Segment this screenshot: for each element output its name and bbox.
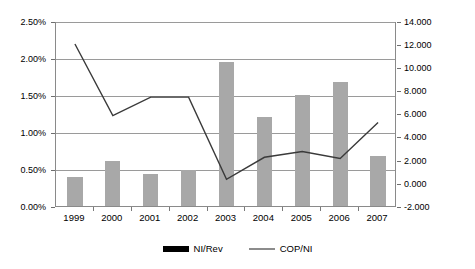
right-axis-tick-label: 14.000 [404, 18, 464, 27]
chart-legend: NI/Rev COP/NI [0, 243, 475, 254]
left-axis-tick-label: 0.00% [0, 203, 46, 212]
x-axis-tick [93, 207, 94, 211]
right-axis-tick-label: -2.000 [404, 203, 464, 212]
right-axis-tick-label: 6.000 [404, 110, 464, 119]
x-axis-tick-label: 2007 [357, 213, 397, 223]
cop-ni-polyline [75, 44, 378, 179]
right-axis-tick [397, 207, 401, 208]
left-axis-tick-label: 2.50% [0, 18, 46, 27]
left-axis-tick-label: 0.50% [0, 166, 46, 175]
x-axis-tick-label: 2002 [168, 213, 208, 223]
left-axis-tick [51, 207, 55, 208]
right-axis-tick [397, 161, 401, 162]
x-axis-tick [169, 207, 170, 211]
x-axis-tick-label: 2003 [206, 213, 246, 223]
right-axis-tick [397, 184, 401, 185]
chart-container: 2.50% 2.00% 1.50% 1.00% 0.50% 0.00% 14.0… [0, 0, 475, 269]
left-axis-tick-label: 2.00% [0, 55, 46, 64]
right-axis-tick-label: 8.000 [404, 87, 464, 96]
right-axis-tick [397, 22, 401, 23]
x-axis-tick [282, 207, 283, 211]
left-axis-tick-label: 1.00% [0, 129, 46, 138]
x-axis-tick [207, 207, 208, 211]
right-axis-tick-label: 2.000 [404, 157, 464, 166]
legend-item-ni-rev: NI/Rev [163, 243, 223, 254]
left-axis-tick-label: 1.50% [0, 92, 46, 101]
x-axis-tick-label: 2006 [319, 213, 359, 223]
legend-label: NI/Rev [194, 243, 223, 254]
x-axis-tick [131, 207, 132, 211]
line-series-cop-ni [56, 22, 397, 207]
right-axis-tick [397, 45, 401, 46]
legend-item-cop-ni: COP/NI [249, 243, 313, 254]
legend-swatch-bar-icon [163, 246, 189, 252]
x-axis-tick-label: 1999 [54, 213, 94, 223]
legend-swatch-line-icon [249, 248, 275, 250]
x-axis-tick-label: 2000 [92, 213, 132, 223]
x-axis-tick-label: 2001 [130, 213, 170, 223]
x-axis-tick [320, 207, 321, 211]
right-axis-tick [397, 114, 401, 115]
x-axis-tick-label: 2005 [281, 213, 321, 223]
x-axis-tick [358, 207, 359, 211]
plot-area [55, 22, 396, 207]
right-axis-tick-label: 10.000 [404, 64, 464, 73]
right-axis-tick [397, 91, 401, 92]
right-axis-tick-label: 4.000 [404, 133, 464, 142]
right-axis-tick-label: 0.000 [404, 180, 464, 189]
right-axis-tick [397, 68, 401, 69]
x-axis-tick-label: 2004 [243, 213, 283, 223]
right-axis-tick-label: 12.000 [404, 41, 464, 50]
x-axis-tick [244, 207, 245, 211]
legend-label: COP/NI [280, 243, 313, 254]
right-axis-tick [397, 137, 401, 138]
